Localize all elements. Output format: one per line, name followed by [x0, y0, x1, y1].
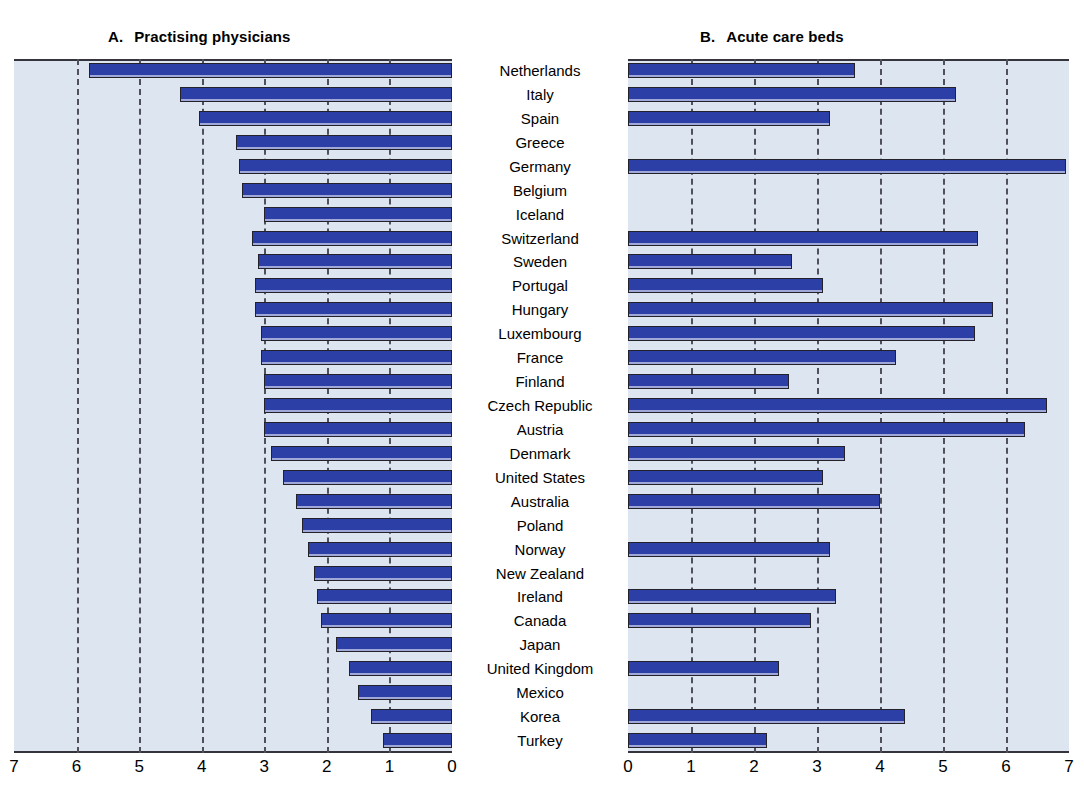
bar-row — [14, 705, 452, 729]
country-label-netherlands: Netherlands — [456, 59, 624, 83]
country-label-mexico: Mexico — [456, 681, 624, 705]
country-label-switzerland: Switzerland — [456, 227, 624, 251]
axis-tick-3: 3 — [260, 757, 269, 777]
country-label-greece: Greece — [456, 131, 624, 155]
bar-row — [14, 274, 452, 298]
bar-united-states — [628, 470, 823, 485]
country-label-portugal: Portugal — [456, 274, 624, 298]
bar-row — [14, 609, 452, 633]
country-label-column: NetherlandsItalySpainGreeceGermanyBelgiu… — [456, 59, 624, 753]
bar-australia — [296, 494, 452, 509]
axis-tick-4: 4 — [875, 757, 884, 777]
bar-ireland — [317, 589, 452, 604]
country-label-sweden: Sweden — [456, 250, 624, 274]
bar-finland — [264, 374, 452, 389]
country-label-korea: Korea — [456, 705, 624, 729]
bar-sweden — [258, 254, 452, 269]
panel-b-title-text: Acute care beds — [726, 28, 843, 45]
axis-tick-6: 6 — [1001, 757, 1010, 777]
bar-row — [628, 466, 1069, 490]
bar-row — [628, 657, 1069, 681]
bar-row — [14, 562, 452, 586]
bar-row — [628, 609, 1069, 633]
bar-row — [628, 155, 1069, 179]
bar-italy — [628, 87, 956, 102]
bar-row — [14, 346, 452, 370]
panel-a-title-text: Practising physicians — [134, 28, 290, 45]
bar-iceland — [264, 207, 452, 222]
axis-tick-5: 5 — [134, 757, 143, 777]
bar-row — [628, 59, 1069, 83]
axis-tick-0: 0 — [447, 757, 456, 777]
axis-tick-7: 7 — [1064, 757, 1073, 777]
bar-row — [628, 346, 1069, 370]
bar-korea — [628, 709, 905, 724]
bar-turkey — [383, 733, 452, 748]
bar-row — [628, 322, 1069, 346]
bar-row — [628, 203, 1069, 227]
bar-new-zealand — [314, 566, 452, 581]
bar-czech-republic — [628, 398, 1047, 413]
axis-tick-1: 1 — [385, 757, 394, 777]
bar-row — [628, 107, 1069, 131]
bar-france — [628, 350, 896, 365]
country-label-canada: Canada — [456, 609, 624, 633]
bar-netherlands — [89, 63, 452, 78]
bar-portugal — [255, 278, 452, 293]
bar-row — [628, 83, 1069, 107]
bar-row — [628, 490, 1069, 514]
panel-b-plot-area — [628, 59, 1069, 753]
bar-spain — [628, 111, 830, 126]
bar-netherlands — [628, 63, 855, 78]
country-label-germany: Germany — [456, 155, 624, 179]
bar-korea — [371, 709, 452, 724]
country-label-united-states: United States — [456, 466, 624, 490]
panel-b-letter: B. — [700, 28, 715, 45]
bar-hungary — [628, 302, 993, 317]
bar-row — [14, 490, 452, 514]
axis-tick-3: 3 — [812, 757, 821, 777]
bar-row — [628, 370, 1069, 394]
bar-row — [628, 705, 1069, 729]
bar-switzerland — [628, 231, 978, 246]
bar-row — [14, 131, 452, 155]
bar-canada — [628, 613, 811, 628]
axis-tick-0: 0 — [623, 757, 632, 777]
bar-row — [14, 107, 452, 131]
bar-spain — [199, 111, 452, 126]
bar-germany — [239, 159, 452, 174]
country-label-luxembourg: Luxembourg — [456, 322, 624, 346]
bar-row — [14, 203, 452, 227]
panel-b-axis-tick-labels: 01234567 — [628, 757, 1069, 781]
bar-row — [628, 585, 1069, 609]
bar-row — [14, 514, 452, 538]
country-label-hungary: Hungary — [456, 298, 624, 322]
bar-row — [14, 59, 452, 83]
country-label-iceland: Iceland — [456, 203, 624, 227]
axis-tick-5: 5 — [938, 757, 947, 777]
panel-a-plot-area — [14, 59, 452, 753]
bar-row — [14, 250, 452, 274]
country-label-australia: Australia — [456, 490, 624, 514]
bar-row — [14, 466, 452, 490]
bar-norway — [308, 542, 452, 557]
bar-belgium — [242, 183, 452, 198]
bar-row — [14, 179, 452, 203]
country-label-finland: Finland — [456, 370, 624, 394]
country-label-ireland: Ireland — [456, 585, 624, 609]
bar-row — [628, 729, 1069, 753]
country-label-denmark: Denmark — [456, 442, 624, 466]
bar-austria — [628, 422, 1025, 437]
bar-row — [14, 394, 452, 418]
axis-tick-6: 6 — [72, 757, 81, 777]
bar-row — [14, 322, 452, 346]
bar-row — [628, 394, 1069, 418]
bar-row — [628, 179, 1069, 203]
axis-tick-4: 4 — [197, 757, 206, 777]
bar-denmark — [271, 446, 452, 461]
panel-a-axis-tick-labels: 76543210 — [14, 757, 452, 781]
country-label-czech-republic: Czech Republic — [456, 394, 624, 418]
bar-row — [628, 442, 1069, 466]
bar-hungary — [255, 302, 452, 317]
bar-row — [14, 83, 452, 107]
